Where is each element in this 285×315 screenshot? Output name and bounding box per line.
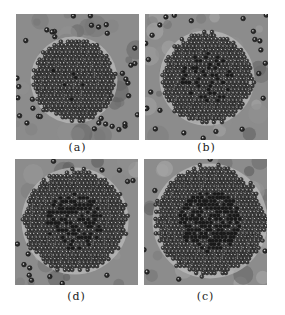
- micrograph-panel-b: [145, 14, 268, 140]
- micrograph-panel-c: [144, 159, 267, 285]
- panel-label-a: (a): [16, 141, 139, 154]
- panel-label-b: (b): [145, 141, 268, 154]
- panel-label-d: (d): [15, 290, 138, 303]
- micrograph-panel-a: [16, 14, 139, 140]
- panel-label-c: (c): [144, 290, 267, 303]
- micrograph-panel-d: [15, 159, 138, 285]
